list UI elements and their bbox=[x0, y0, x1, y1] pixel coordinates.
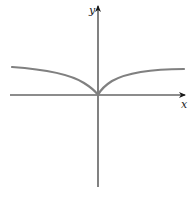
y-axis-label: y bbox=[88, 4, 96, 17]
curve-left bbox=[12, 67, 98, 95]
curve-right bbox=[98, 69, 184, 95]
x-axis-label: x bbox=[181, 98, 188, 111]
chart-plot: y x bbox=[0, 0, 196, 203]
